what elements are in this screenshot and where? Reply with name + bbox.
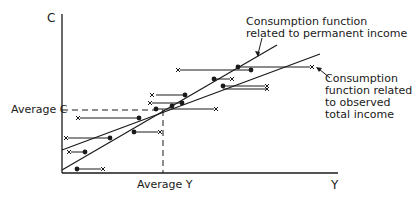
average-y-label: Average Y — [137, 179, 192, 191]
observation-connectors — [68, 67, 310, 169]
permanent-income-line — [62, 45, 277, 170]
observed-income-line — [62, 54, 320, 150]
average-c-label: Average C — [11, 104, 67, 116]
permanent-annotation-line-2: related to permanent income — [246, 28, 407, 40]
observed-annotation-line-4: total income — [325, 109, 394, 121]
y-axis-label: C — [47, 12, 55, 24]
x-axis-label: Y — [331, 179, 338, 191]
consumption-function-diagram: C Y Average C Average Y Consumption func… — [0, 0, 415, 199]
